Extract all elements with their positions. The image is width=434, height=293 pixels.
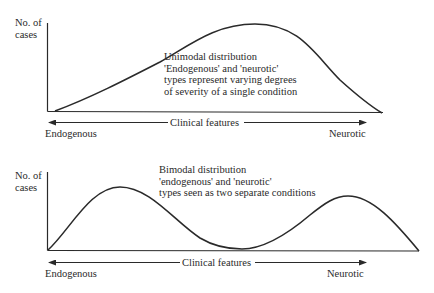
top-y-label: No. of cases bbox=[15, 17, 42, 40]
diagram-canvas bbox=[0, 0, 434, 293]
top-y-label-line1: No. of bbox=[15, 17, 42, 29]
top-x-axis-label: Clinical features bbox=[170, 117, 239, 129]
top-description: Unimodal distribution 'Endogenous' and '… bbox=[164, 51, 297, 97]
bottom-y-label-line1: No. of bbox=[15, 170, 42, 182]
bottom-description-line: types seen as two separate conditions bbox=[159, 187, 316, 199]
top-description-line: types represent varying degrees bbox=[164, 74, 297, 86]
bottom-description: Bimodal distribution 'endogenous' and 'n… bbox=[159, 164, 316, 199]
bottom-x-axis bbox=[48, 251, 420, 252]
bottom-description-line: 'endogenous' and 'neurotic' bbox=[159, 176, 316, 188]
top-y-label-line2: cases bbox=[15, 29, 42, 41]
bottom-neurotic-label: Neurotic bbox=[327, 268, 364, 280]
top-endogenous-label: Endogenous bbox=[45, 128, 97, 140]
bottom-description-line: Bimodal distribution bbox=[159, 164, 316, 176]
bottom-y-label-line2: cases bbox=[15, 182, 42, 194]
bottom-x-axis-label: Clinical features bbox=[182, 257, 251, 269]
bottom-y-label: No. of cases bbox=[15, 170, 42, 193]
top-description-line: Unimodal distribution bbox=[164, 51, 297, 63]
top-x-axis bbox=[48, 112, 384, 113]
top-description-line: 'Endogenous' and 'neurotic' bbox=[164, 63, 297, 75]
bottom-endogenous-label: Endogenous bbox=[45, 268, 97, 280]
top-neurotic-label: Neurotic bbox=[329, 128, 366, 140]
top-description-line: of severity of a single condition bbox=[164, 86, 297, 98]
